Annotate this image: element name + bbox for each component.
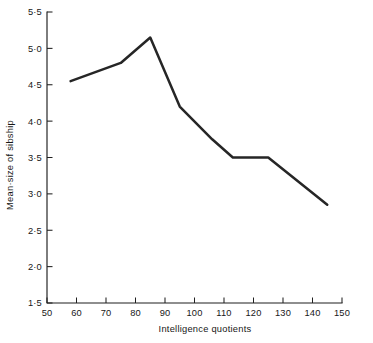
x-axis-tick-label: 90	[160, 308, 171, 318]
x-axis-tick-label: 130	[275, 308, 291, 318]
x-axis-tick-label: 70	[101, 308, 112, 318]
x-axis-tick-label: 150	[334, 308, 350, 318]
x-axis-tick-label: 50	[42, 308, 53, 318]
y-axis-ticks	[47, 12, 53, 303]
x-axis-tick-label: 60	[71, 308, 82, 318]
y-axis-tick-label: 4·0	[28, 117, 42, 127]
line-chart: 1·52·02·53·03·54·04·55·05·5 506070809010…	[0, 0, 373, 343]
data-series-line	[71, 37, 328, 204]
x-axis-tick-label: 120	[245, 308, 261, 318]
y-axis-tick-label: 3·5	[28, 153, 42, 163]
x-axis-ticks	[47, 298, 342, 304]
x-axis-tick-label: 100	[186, 308, 202, 318]
y-axis-tick-label: 4·5	[28, 80, 42, 90]
x-axis-tick-label: 140	[304, 308, 320, 318]
y-axis-tick-label: 3·0	[28, 189, 42, 199]
axis-lines	[47, 12, 342, 303]
y-axis-tick-label: 1·5	[28, 298, 42, 308]
y-axis-tick-label: 2·5	[28, 226, 42, 236]
y-axis-tick-label: 5·0	[28, 44, 42, 54]
x-axis-tick-labels: 5060708090100110120130140150	[42, 308, 350, 318]
x-axis-tick-label: 110	[216, 308, 231, 318]
x-axis-tick-label: 80	[130, 308, 141, 318]
plot-area: 1·52·02·53·03·54·04·55·05·5 506070809010…	[5, 7, 350, 334]
y-axis-tick-labels: 1·52·02·53·03·54·04·55·05·5	[28, 7, 42, 308]
y-axis-tick-label: 2·0	[28, 262, 42, 272]
x-axis-title: Intelligence quotients	[159, 324, 252, 334]
y-axis-title: Mean·size of sibship	[5, 120, 15, 210]
y-axis-tick-label: 5·5	[28, 7, 42, 17]
